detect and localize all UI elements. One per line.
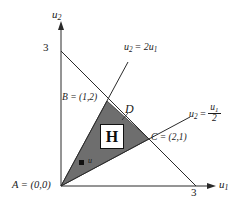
interior-point-label: u: [88, 157, 92, 165]
x-axis-label-subscript: 1: [225, 183, 229, 192]
steep-ray-label-eq: = 2u: [133, 41, 154, 52]
y-axis-label-subscript: 2: [58, 13, 62, 22]
point-label-A: A = (0,0): [12, 180, 51, 191]
region-label-H: H: [101, 125, 123, 148]
point-label-D: D: [125, 103, 134, 115]
y-axis-arrowhead: [58, 21, 64, 30]
y-axis-label: u2: [52, 9, 61, 22]
x-axis-arrowhead: [207, 183, 216, 189]
fraction-denominator: 2: [208, 114, 220, 124]
shallow-ray-equation-label: u2=u12: [189, 103, 221, 124]
x-axis-label: u1: [219, 179, 228, 192]
geometry-figure: u2 u1 3 3 A = (0,0) B = (1,2) C = (2,1) …: [0, 0, 241, 212]
steep-ray-equation-label: u2= 2u1: [124, 42, 157, 54]
shallow-ray-fraction: u12: [208, 103, 220, 124]
region-label-box: H: [100, 124, 124, 149]
x-axis-tick-label-3: 3: [191, 187, 197, 198]
interior-point-marker: [79, 160, 84, 165]
shallow-ray-label-eq: =: [198, 108, 209, 119]
fraction-numerator-sub: 1: [215, 106, 218, 113]
steep-ray-label-sub2: 1: [154, 46, 158, 54]
y-axis-tick-label-3: 3: [43, 42, 49, 53]
point-label-C: C = (2,1): [151, 133, 187, 143]
point-label-B: B = (1,2): [62, 93, 97, 103]
